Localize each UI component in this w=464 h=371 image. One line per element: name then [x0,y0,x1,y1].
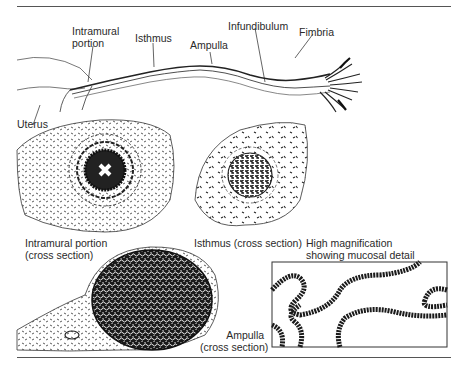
label-intramural-line2: portion [72,37,119,49]
tube-drawing [70,58,362,112]
label-infundibulum: Infundibulum [228,20,288,32]
caption-intramural-line1: Intramural portion [25,237,107,249]
caption-isthmus-cross-section: Isthmus (cross section) [194,237,302,249]
label-fimbria: Fimbria [299,26,334,38]
caption-intramural-cross-section: Intramural portion (cross section) [25,237,107,261]
intramural-cross-section [17,120,174,232]
caption-detail-line2: showing mucosal detail [306,249,415,261]
leader-lines [88,28,313,82]
caption-detail-line1: High magnification [306,237,415,249]
caption-ampulla-line2: (cross section) [200,341,268,353]
caption-mucosal-detail: High magnification showing mucosal detai… [306,237,415,261]
label-intramural-line1: Intramural [72,25,119,37]
caption-ampulla-line1: Ampulla [200,329,268,341]
label-isthmus: Isthmus [135,32,172,44]
caption-intramural-line2: (cross section) [25,249,107,261]
caption-ampulla-cross-section: Ampulla (cross section) [200,329,268,353]
mucosal-detail-panel [272,262,447,347]
fallopian-tube-illustration [0,0,464,371]
label-ampulla: Ampulla [190,39,228,51]
label-intramural: Intramural portion [72,25,119,49]
label-uterus: Uterus [17,118,48,130]
uterus-drawing [17,57,92,125]
ampulla-cross-section [17,247,218,351]
isthmus-cross-section [195,122,308,225]
